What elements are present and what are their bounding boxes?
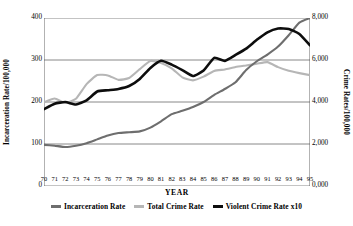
legend-swatch-icon (213, 205, 223, 208)
y-axis-left-title-text: Incarceration Rate/100,000 (3, 59, 11, 145)
y-axis-right-ticks: 0,0002,0004,0006,0008,000 (312, 0, 344, 226)
legend-swatch-icon (51, 205, 61, 208)
x-axis-tick-label: 71 (51, 176, 57, 182)
x-axis-ticks: 7071727374757677787980818283848586878889… (40, 176, 316, 188)
x-axis-tick-label: 77 (115, 176, 121, 182)
y-axis-left-tick-label: 0 (16, 182, 42, 189)
legend-label: Violent Crime Rate x10 (226, 202, 302, 211)
x-axis-title: YEAR (44, 188, 310, 197)
x-axis-tick-label: 87 (222, 176, 228, 182)
x-axis-tick-label: 72 (62, 176, 68, 182)
y-axis-right-tick-label: 4,000 (312, 98, 342, 105)
x-axis-tick-label: 88 (232, 176, 238, 182)
x-axis-tick-label: 74 (83, 176, 89, 182)
x-axis-tick-label: 73 (73, 176, 79, 182)
x-axis-tick-label: 75 (94, 176, 100, 182)
x-axis-tick-label: 93 (286, 176, 292, 182)
plot-area (44, 18, 310, 186)
legend-item: Total Crime Rate (134, 202, 203, 211)
legend-label: Incarceration Rate (64, 202, 125, 211)
legend-item: Incarceration Rate (51, 202, 125, 211)
y-axis-left-tick-label: 400 (16, 14, 42, 21)
y-axis-right-tick-label: 6,000 (312, 56, 342, 63)
chart-canvas (44, 18, 310, 186)
x-axis-tick-label: 84 (190, 176, 196, 182)
x-axis-tick-label: 89 (243, 176, 249, 182)
x-axis-tick-label: 91 (264, 176, 270, 182)
y-axis-left-tick-label: 300 (16, 56, 42, 63)
series-line-violent-crime-rate-x10 (44, 28, 310, 109)
x-axis-tick-label: 94 (296, 176, 302, 182)
y-axis-left-tick-label: 200 (16, 98, 42, 105)
x-axis-tick-label: 95 (307, 176, 313, 182)
y-axis-right-tick-label: 8,000 (312, 14, 342, 21)
y-axis-right-tick-label: 2,000 (312, 140, 342, 147)
x-axis-tick-label: 86 (211, 176, 217, 182)
x-axis-tick-label: 83 (179, 176, 185, 182)
legend-swatch-icon (134, 205, 144, 208)
y-axis-left-ticks: 0100200300400 (12, 0, 42, 226)
x-axis-tick-label: 90 (254, 176, 260, 182)
x-axis-tick-label: 92 (275, 176, 281, 182)
chart-figure: Incarceration Rate/100,000 Crime Rates/1… (0, 0, 353, 226)
legend-item: Violent Crime Rate x10 (213, 202, 302, 211)
x-axis-tick-label: 82 (168, 176, 174, 182)
x-axis-tick-label: 81 (158, 176, 164, 182)
chart-legend: Incarceration RateTotal Crime RateViolen… (0, 202, 353, 211)
legend-label: Total Crime Rate (147, 202, 203, 211)
x-axis-tick-label: 85 (200, 176, 206, 182)
x-axis-tick-label: 78 (126, 176, 132, 182)
x-axis-tick-label: 76 (105, 176, 111, 182)
series-line-incarceration-rate (44, 18, 310, 147)
x-axis-tick-label: 70 (41, 176, 47, 182)
x-axis-tick-label: 80 (147, 176, 153, 182)
y-axis-right-tick-label: 0,000 (312, 182, 342, 189)
x-axis-tick-label: 79 (137, 176, 143, 182)
y-axis-left-tick-label: 100 (16, 140, 42, 147)
